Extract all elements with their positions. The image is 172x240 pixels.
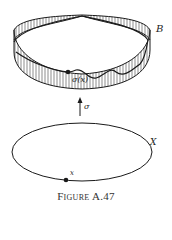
label-bundle-b: B	[156, 24, 163, 34]
label-section-point: σ(x)	[72, 76, 88, 84]
figure-caption: Figure A.47	[0, 190, 172, 202]
base-point	[64, 178, 69, 183]
label-sigma: σ	[84, 103, 89, 111]
base-circle	[12, 123, 152, 181]
section-point	[66, 70, 71, 75]
label-base-x-space: X	[150, 138, 156, 147]
label-base-point: x	[70, 170, 74, 177]
section-arrow	[78, 97, 83, 116]
